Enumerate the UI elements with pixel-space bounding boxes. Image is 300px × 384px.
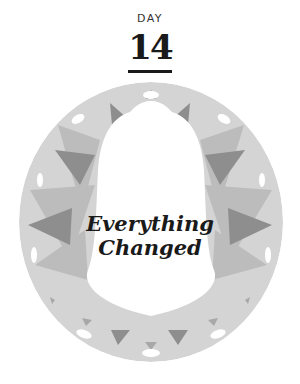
title-line-1: Everything (0, 212, 300, 236)
bell-in-ring-icon (0, 0, 300, 384)
title-line-2: Changed (0, 236, 300, 260)
